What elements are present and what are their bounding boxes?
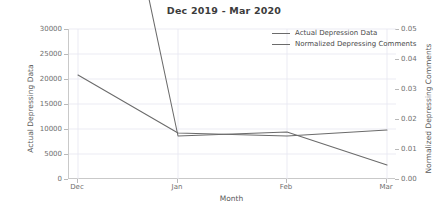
x-axis-label: Month (68, 194, 395, 203)
plot-canvas (69, 29, 396, 179)
legend-item[interactable]: Normalized Depressing Comments (272, 39, 416, 50)
xtick-label: Feb (266, 183, 306, 191)
y-axis-label-right: Normalized Depressing Comments (424, 34, 433, 184)
ytick-mark-left (64, 179, 68, 180)
legend-item[interactable]: Actual Depression Data (272, 28, 416, 39)
ytick-label-left: 30000 (22, 25, 62, 33)
chart-title: Dec 2019 - Mar 2020 (0, 5, 448, 16)
series-line-normalized-depressing-comments (149, 0, 387, 165)
legend-item-label: Actual Depression Data (295, 30, 377, 37)
plot-area (68, 29, 395, 179)
xtick-label: Dec (57, 183, 97, 191)
legend-line-swatch-icon (272, 33, 290, 34)
legend-line-swatch-icon (272, 44, 290, 45)
ytick-mark-right (395, 179, 399, 180)
chart-figure: Dec 2019 - Mar 2020 0 5000 10000 15000 2… (0, 0, 448, 209)
legend-item-label: Normalized Depressing Comments (295, 41, 416, 48)
xtick-label: Jan (157, 183, 197, 191)
y-axis-label-left: Actual Depressing Data (26, 34, 35, 184)
series-line-actual-depression-data (78, 75, 387, 136)
chart-legend: Actual Depression Data Normalized Depres… (272, 28, 416, 50)
xtick-label: Mar (366, 183, 406, 191)
